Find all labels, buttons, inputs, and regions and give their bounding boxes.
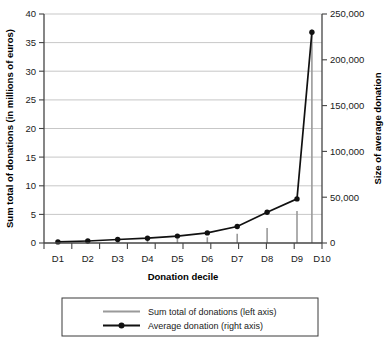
y-axis-right-ticks: [322, 14, 327, 243]
point-D4: [145, 236, 150, 241]
x-tick-D9: D9: [291, 253, 303, 264]
y-axis-right-tick-labels: 0 50,000 100,000 150,000 200,000 250,000: [330, 8, 364, 248]
y-left-tick-7: 35: [25, 37, 36, 48]
donation-decile-chart: 40 35 30 25 20 15 10 5 0 0 50,000 100,00…: [0, 0, 389, 345]
x-tick-D8: D8: [261, 253, 273, 264]
chart-figure: 40 35 30 25 20 15 10 5 0 0 50,000 100,00…: [0, 0, 389, 345]
y-axis-left-tick-labels: 40 35 30 25 20 15 10 5 0: [25, 8, 36, 248]
point-D7: [235, 224, 240, 229]
point-D9: [294, 196, 299, 201]
x-axis-title: Donation decile: [148, 271, 219, 282]
y-axis-left-title: Sum total of donations (in millions of e…: [4, 29, 15, 228]
y-right-tick-3: 150,000: [330, 100, 364, 111]
y-left-tick-4: 20: [25, 123, 36, 134]
y-right-tick-4: 200,000: [330, 54, 364, 65]
x-tick-D10: D10: [313, 253, 330, 264]
x-tick-D7: D7: [231, 253, 243, 264]
y-left-tick-0: 0: [31, 237, 36, 248]
y-left-tick-6: 30: [25, 66, 36, 77]
y-left-tick-3: 15: [25, 152, 36, 163]
legend-label-sum-total: Sum total of donations (left axis): [148, 307, 277, 317]
legend-swatch-marker-dot: [119, 323, 125, 329]
y-axis-left-ticks: [39, 14, 44, 243]
y-right-tick-2: 100,000: [330, 146, 364, 157]
y-right-tick-1: 50,000: [330, 192, 359, 203]
chart-legend: Sum total of donations (left axis) Avera…: [62, 298, 318, 336]
x-tick-D2: D2: [82, 253, 94, 264]
point-D1: [55, 239, 60, 244]
x-axis-tick-labels: D1 D2 D3 D4 D5 D6 D7 D8 D9 D10: [52, 253, 331, 264]
point-D10: [309, 30, 314, 35]
legend-label-average-donation: Average donation (right axis): [148, 321, 263, 331]
y-left-tick-8: 40: [25, 8, 36, 19]
y-left-tick-2: 10: [25, 180, 36, 191]
point-D8: [264, 210, 269, 215]
x-axis-ticks: [44, 243, 322, 249]
y-left-tick-5: 25: [25, 94, 36, 105]
y-axis-right-title: Size of average donation: [372, 72, 383, 184]
y-left-tick-1: 5: [31, 209, 36, 220]
point-D5: [175, 233, 180, 238]
x-tick-D5: D5: [171, 253, 183, 264]
point-D3: [115, 237, 120, 242]
y-right-tick-5: 250,000: [330, 8, 364, 19]
x-tick-D1: D1: [52, 253, 64, 264]
x-tick-D3: D3: [112, 253, 124, 264]
x-tick-D4: D4: [141, 253, 153, 264]
point-D6: [205, 230, 210, 235]
y-right-tick-0: 0: [330, 237, 335, 248]
x-tick-D6: D6: [201, 253, 213, 264]
